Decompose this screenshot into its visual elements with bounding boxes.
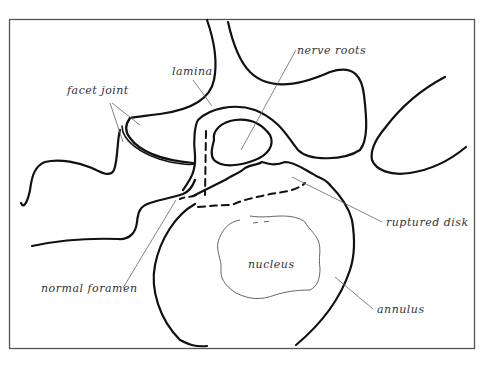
annulus-right-outline <box>296 185 354 345</box>
left-lower-outline <box>32 180 195 246</box>
label-ruptured-disk: ruptured disk <box>386 216 469 229</box>
label-normal-foramen: normal foramen <box>41 282 138 295</box>
label-nerve-roots: nerve roots <box>297 44 366 57</box>
right-transverse-outline <box>372 77 466 174</box>
foramen-dashed-line-1 <box>205 131 206 195</box>
annulus-outline <box>154 204 207 346</box>
spine-diagram: facet joint lamina nerve roots ruptured … <box>0 0 497 372</box>
label-facet-joint: facet joint <box>66 84 129 97</box>
ruptured-disk-outline <box>195 162 330 195</box>
facet-joint-inner <box>122 126 195 164</box>
diagram-frame <box>10 20 475 349</box>
ruptured-disk-leader <box>292 177 382 222</box>
left-pedicle-outline <box>21 130 120 205</box>
label-nucleus: nucleus <box>248 258 295 271</box>
label-lamina: lamina <box>172 65 213 78</box>
foramen-dashed-line-2 <box>180 195 196 199</box>
nerve-roots-outline <box>212 120 272 166</box>
facet-joint-leader-2 <box>110 103 123 142</box>
nucleus-dashed-top <box>253 221 272 223</box>
facet-joint-outline <box>126 118 193 163</box>
normal-foramen-leader <box>123 200 176 288</box>
label-annulus: annulus <box>377 303 425 316</box>
